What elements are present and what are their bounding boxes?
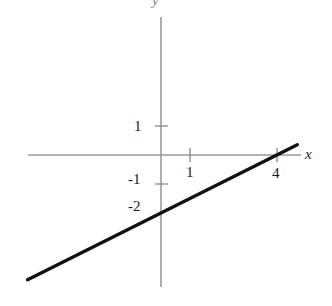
x-tick-label-1: 1 <box>186 165 194 180</box>
x-axis-label: x <box>305 147 312 162</box>
line-graph-figure: y x 1 -1 -2 1 4 <box>0 0 332 306</box>
coordinate-plane <box>0 0 332 306</box>
y-tick-label-minus-1: -1 <box>128 172 141 187</box>
y-axis-label: y <box>152 0 159 8</box>
y-tick-label-minus-2: -2 <box>128 199 141 214</box>
plotted-line <box>28 145 298 280</box>
x-tick-label-4: 4 <box>272 166 280 181</box>
y-tick-label-1: 1 <box>134 119 142 134</box>
